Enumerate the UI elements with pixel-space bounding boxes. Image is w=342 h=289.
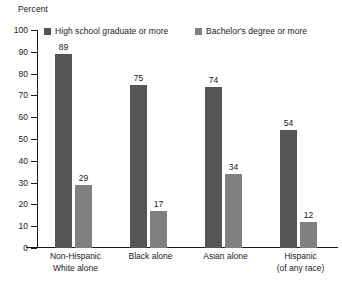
plot-area: 8929751774345412 (38, 30, 338, 248)
bar-value-label-1-1: 17 (154, 199, 163, 209)
category-label-line1-3: Hispanic (284, 251, 317, 261)
y-tick-mark-10 (31, 226, 37, 227)
y-tick-label-70: 70 (0, 90, 28, 100)
y-tick-mark-50 (31, 139, 37, 140)
y-tick-label-20: 20 (0, 199, 28, 209)
category-label-line2-3: (of any race) (263, 263, 338, 275)
y-tick-label-80: 80 (0, 69, 28, 79)
y-tick-mark-90 (31, 52, 37, 53)
y-tick-label-50: 50 (0, 134, 28, 144)
y-tick-mark-30 (31, 183, 37, 184)
y-tick-label-10: 10 (0, 221, 28, 231)
y-tick-label-0: 0 (0, 243, 28, 253)
bar-3-0[interactable]: 54 (280, 130, 297, 248)
y-tick-label-90: 90 (0, 47, 28, 57)
bar-value-label-2-1: 34 (229, 162, 238, 172)
y-tick-label-30: 30 (0, 178, 28, 188)
bar-2-1[interactable]: 34 (225, 174, 242, 248)
y-tick-mark-0 (31, 248, 37, 249)
y-tick-label-100: 100 (0, 25, 28, 35)
category-label-line1-1: Black alone (129, 251, 173, 261)
bar-value-label-1-0: 75 (134, 73, 143, 83)
category-label-line1-0: Non-Hispanic (50, 251, 101, 261)
category-label-0: Non-HispanicWhite alone (38, 251, 113, 274)
category-label-line1-2: Asian alone (203, 251, 247, 261)
bar-3-1[interactable]: 12 (300, 222, 317, 248)
bar-2-0[interactable]: 74 (205, 87, 222, 248)
bar-1-1[interactable]: 17 (150, 211, 167, 248)
bar-value-label-3-0: 54 (284, 118, 293, 128)
y-tick-mark-60 (31, 117, 37, 118)
x-axis-category-labels: Non-HispanicWhite aloneBlack aloneAsian … (38, 251, 338, 287)
bar-group-1: 7517 (113, 30, 188, 248)
bar-group-3: 5412 (263, 30, 338, 248)
y-axis-title: Percent (18, 4, 48, 14)
y-tick-mark-40 (31, 161, 37, 162)
bar-value-label-2-0: 74 (209, 75, 218, 85)
bar-chart: Percent High school graduate or moreBach… (0, 0, 342, 289)
category-label-3: Hispanic(of any race) (263, 251, 338, 274)
bar-value-label-0-1: 29 (79, 173, 88, 183)
bar-value-label-0-0: 89 (59, 42, 68, 52)
bar-group-0: 8929 (38, 30, 113, 248)
y-tick-mark-100 (31, 30, 37, 31)
y-tick-mark-70 (31, 95, 37, 96)
category-label-1: Black alone (113, 251, 188, 263)
bar-0-0[interactable]: 89 (55, 54, 72, 248)
y-tick-mark-80 (31, 74, 37, 75)
bar-value-label-3-1: 12 (304, 210, 313, 220)
category-label-2: Asian alone (188, 251, 263, 263)
bar-1-0[interactable]: 75 (130, 85, 147, 249)
y-tick-mark-20 (31, 204, 37, 205)
bar-0-1[interactable]: 29 (75, 185, 92, 248)
y-tick-label-40: 40 (0, 156, 28, 166)
category-label-line2-0: White alone (38, 263, 113, 275)
bar-group-2: 7434 (188, 30, 263, 248)
y-tick-label-60: 60 (0, 112, 28, 122)
